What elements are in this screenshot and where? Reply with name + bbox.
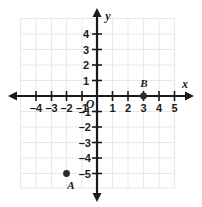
y-tick-label: –5 (79, 168, 91, 180)
x-tick-label: 5 (171, 102, 177, 114)
y-tick-label: 4 (83, 28, 90, 40)
x-tick-label: –2 (60, 102, 72, 114)
x-tick-label: –3 (45, 102, 57, 114)
data-point-b: B (139, 77, 147, 99)
x-tick-label: 3 (140, 102, 146, 114)
point-label-a: A (66, 179, 74, 191)
y-axis-name: y (103, 9, 111, 23)
x-axis-name: x (181, 77, 188, 91)
y-tick-label: 2 (83, 59, 89, 71)
coordinate-plane: –4 –3 –2 –1 1 2 3 4 5 4 3 2 1 –1 –2 –3 –… (0, 0, 202, 207)
x-tick-label: 2 (125, 102, 131, 114)
x-tick-label: –4 (30, 102, 43, 114)
point-marker (140, 93, 147, 100)
y-tick-label: –4 (79, 152, 92, 164)
point-marker (63, 170, 70, 177)
y-tick-label: –3 (79, 137, 91, 149)
x-tick-label: 4 (156, 102, 163, 114)
y-tick-label: 3 (83, 44, 89, 56)
point-label-b: B (139, 77, 147, 89)
origin-label: O (86, 97, 95, 111)
coordinate-plane-svg: –4 –3 –2 –1 1 2 3 4 5 4 3 2 1 –1 –2 –3 –… (0, 0, 202, 207)
y-tick-label: –2 (79, 121, 91, 133)
y-tick-label: 1 (83, 75, 89, 87)
x-tick-label: 1 (109, 102, 115, 114)
